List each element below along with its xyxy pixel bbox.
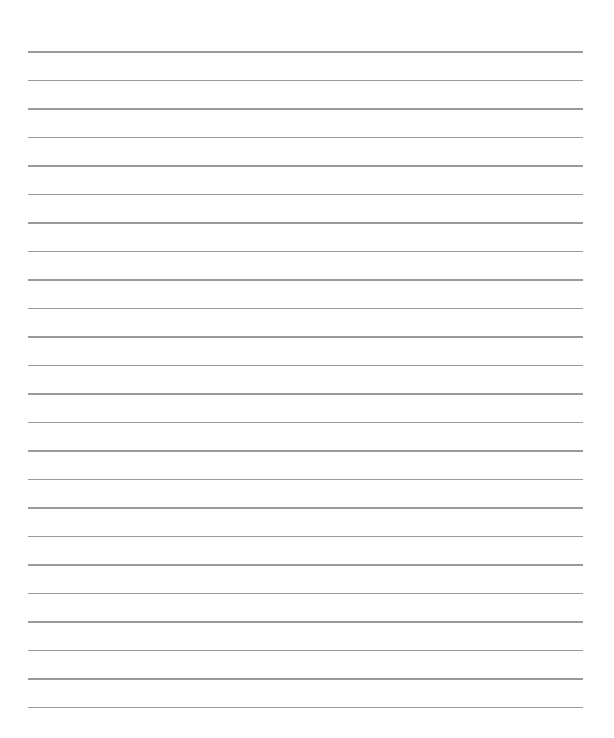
- ruled-line: [28, 279, 583, 281]
- ruled-line: [28, 365, 583, 367]
- ruled-line: [28, 336, 583, 338]
- ruled-line: [28, 137, 583, 139]
- ruled-line: [28, 593, 583, 595]
- ruled-line: [28, 222, 583, 224]
- ruled-line: [28, 450, 583, 452]
- ruled-line: [28, 194, 583, 196]
- ruled-line: [28, 51, 583, 53]
- ruled-line: [28, 536, 583, 538]
- ruled-line: [28, 564, 583, 566]
- ruled-line: [28, 80, 583, 82]
- ruled-line: [28, 393, 583, 395]
- ruled-line: [28, 707, 583, 709]
- ruled-line: [28, 650, 583, 652]
- ruled-line: [28, 165, 583, 167]
- ruled-line: [28, 308, 583, 310]
- ruled-line: [28, 678, 583, 680]
- ruled-line: [28, 422, 583, 424]
- ruled-line: [28, 251, 583, 253]
- ruled-line: [28, 108, 583, 110]
- ruled-line: [28, 479, 583, 481]
- ruled-line: [28, 621, 583, 623]
- ruled-line: [28, 507, 583, 509]
